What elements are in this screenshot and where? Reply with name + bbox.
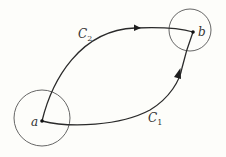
neighborhood-circle-a <box>14 90 70 146</box>
curve-c2-label-subscript: 2 <box>87 34 92 43</box>
path-diagram: a b C2 C1 <box>0 0 226 157</box>
point-a-dot <box>40 119 44 123</box>
curve-c2-label: C2 <box>78 27 92 43</box>
curve-c1-label-subscript: 1 <box>157 118 162 127</box>
point-a-label: a <box>31 115 38 129</box>
curve-c1-label-main: C <box>148 111 157 125</box>
curve-c2 <box>42 28 193 121</box>
curve-c1-label: C1 <box>148 111 162 127</box>
curve-c1-arrow-icon <box>174 68 181 79</box>
curve-c2-label-main: C <box>78 27 87 41</box>
point-b-label: b <box>198 25 206 39</box>
curve-c1 <box>42 32 193 125</box>
point-b-dot <box>191 30 195 34</box>
curve-c2-arrow-icon <box>134 25 141 32</box>
